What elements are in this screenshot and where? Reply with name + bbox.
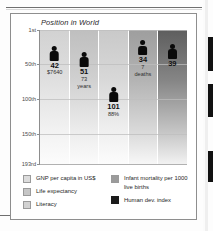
legend-swatch [23,188,31,196]
person-head [82,52,87,57]
y-axis-tick [37,30,40,31]
person-head [170,44,175,49]
data-marker: 42$7640 [47,46,63,77]
legend-label: Life expectancy [36,187,77,196]
document-page: Position in World 1st50th100th150th193rd… [0,0,213,231]
rank-label: 42 [51,62,59,70]
legend-swatch [23,201,31,209]
value-label-unit: deaths [134,71,151,78]
rank-label: 34 [139,56,147,64]
person-head [52,46,57,51]
chart-legend: GNP per capita in US$Life expectancyLite… [23,174,189,214]
value-label: $7640 [47,69,63,76]
data-marker: 10188% [107,87,120,118]
person-icon [79,52,90,67]
y-axis-tick-label: 100th [22,96,36,102]
person-icon [108,87,119,102]
y-axis-tick-label: 1st [29,27,36,33]
y-axis-tick-label: 50th [25,61,36,67]
chart-title: Position in World [41,18,99,27]
legend-item[interactable]: Literacy [23,200,101,209]
plot-area: 1st50th100th150th193rd 42$76405173years1… [39,30,187,165]
value-label: 7 [141,64,144,71]
legend-label: GNP per capita in US$ [36,174,95,183]
value-label-unit: years [77,83,91,90]
legend-swatch [111,196,119,204]
rank-label: 39 [168,60,176,68]
person-head [111,87,116,92]
legend-item[interactable]: Life expectancy [23,187,101,196]
person-body [50,51,59,61]
legend-item[interactable]: Infant mortality per 1000 live births [111,174,189,191]
y-axis-tick [37,64,40,65]
person-body [138,46,147,56]
person-body [109,92,118,102]
y-axis-tick [37,99,40,100]
legend-item[interactable]: GNP per capita in US$ [23,174,101,183]
y-axis-tick [37,134,40,135]
data-marker: 5173years [77,52,91,90]
legend-label: Infant mortality per 1000 live births [124,174,189,191]
gridline [40,30,187,31]
value-label: 88% [108,111,119,118]
legend-item[interactable]: Human dev. index [111,196,189,205]
gridline [40,134,187,135]
person-head [140,40,145,45]
document-rule-top-shadow [6,9,202,10]
rank-label: 101 [107,103,120,111]
legend-label: Literacy [36,200,57,209]
person-body [80,57,89,67]
page-edge-mark [208,84,213,117]
page-edge-mark [208,151,213,182]
document-rule-top [6,7,202,8]
chart-panel: Position in World 1st50th100th150th193rd… [10,13,197,220]
value-label: 73 [81,76,87,83]
legend-column-left: GNP per capita in US$Life expectancyLite… [23,174,101,214]
legend-swatch [23,175,31,183]
chart-column [70,30,100,164]
rank-label: 51 [80,68,88,76]
y-axis-tick-label: 193rd [22,161,36,167]
person-body [168,49,177,59]
data-marker: 39 [167,44,178,68]
legend-swatch [111,175,119,183]
data-marker: 347deaths [134,40,151,78]
y-axis-tick [37,164,40,165]
person-icon [49,46,60,61]
y-axis-tick-label: 150th [22,131,36,137]
gridline [40,164,187,165]
person-icon [137,40,148,55]
legend-label: Human dev. index [124,196,171,205]
person-icon [167,44,178,59]
page-edge-strip-inner [203,0,205,231]
legend-column-right: Infant mortality per 1000 live birthsHum… [111,174,189,214]
page-edge-mark [208,37,213,71]
